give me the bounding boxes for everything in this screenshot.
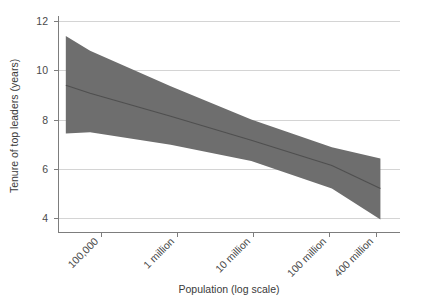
y-tick-label-10: 10 [36,64,48,76]
y-tick-label-12: 12 [36,15,48,27]
y-tick-label-8: 8 [42,114,48,126]
chart-container: 12 10 8 6 4 100,000 1 million 10 million… [0,0,427,304]
tenure-vs-population-chart: 12 10 8 6 4 100,000 1 million 10 million… [0,0,427,304]
y-tick-label-6: 6 [42,163,48,175]
x-axis-title: Population (log scale) [179,283,280,295]
y-axis-title: Tenure of top leaders (years) [8,59,20,193]
y-tick-label-4: 4 [42,212,48,224]
